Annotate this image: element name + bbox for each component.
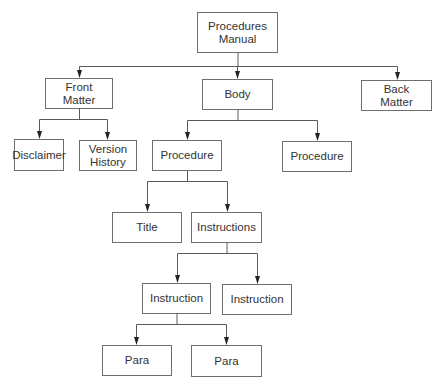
node-procedures-manual: Procedures Manual (197, 12, 278, 53)
arrowhead-icon (105, 132, 110, 140)
node-instruction-2: Instruction (222, 284, 292, 315)
arrowhead-icon (255, 276, 260, 284)
arrowhead-icon (225, 204, 230, 212)
arrowhead-icon (395, 72, 400, 80)
arrowhead-icon (224, 337, 229, 345)
connector-lines (0, 0, 446, 387)
node-title: Title (112, 212, 182, 243)
node-front-matter: Front Matter (45, 78, 113, 109)
node-disclaimer: Disclaimer (14, 139, 64, 171)
arrowhead-icon (134, 337, 139, 345)
node-para-1: Para (102, 345, 172, 376)
hierarchy-diagram: Procedures Manual Front Matter Body Back… (0, 0, 446, 387)
node-version-history: Version History (79, 140, 137, 171)
node-procedure-2: Procedure (282, 141, 352, 172)
node-instructions: Instructions (191, 212, 262, 243)
node-para-2: Para (191, 345, 262, 377)
node-back-matter: Back Matter (361, 80, 432, 111)
node-instruction-1: Instruction (142, 283, 211, 314)
arrowhead-icon (175, 275, 180, 283)
arrowhead-icon (315, 133, 320, 141)
node-procedure-1: Procedure (152, 140, 222, 171)
arrowhead-icon (37, 131, 42, 139)
arrowhead-icon (235, 71, 240, 79)
arrowhead-icon (145, 204, 150, 212)
arrowhead-icon (77, 70, 82, 78)
arrowhead-icon (185, 132, 190, 140)
node-body: Body (202, 79, 273, 110)
